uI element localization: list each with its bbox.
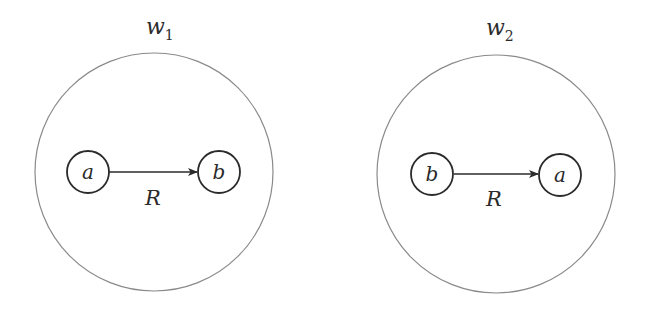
- world-1-edge-label: R: [144, 186, 161, 210]
- world-1-label: w1: [146, 14, 174, 43]
- diagram-canvas: w1 a b R w2 b a R: [0, 0, 645, 311]
- world-1-node-2-label: b: [213, 160, 226, 184]
- world-2-node-1-label: b: [426, 162, 439, 186]
- world-2: w2 b a R: [377, 15, 615, 293]
- world-1: w1 a b R: [35, 14, 273, 291]
- world-2-node-2-label: a: [554, 163, 566, 187]
- world-2-label: w2: [486, 15, 514, 44]
- world-2-edge-label: R: [485, 187, 502, 211]
- world-1-node-1-label: a: [82, 160, 94, 184]
